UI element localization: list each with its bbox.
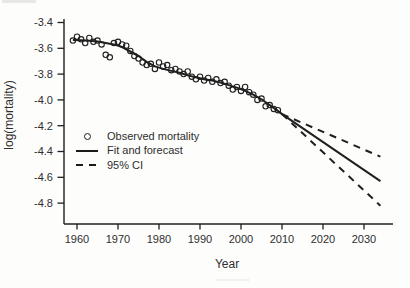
observed-point [185,69,190,74]
observed-point [242,84,247,89]
y-tick-label: -4.4 [34,145,53,157]
dashed-line-icon [76,160,98,170]
y-tick-label: -3.6 [34,42,53,54]
observed-point [107,55,112,60]
y-axis-title: log(mortality) [2,80,16,149]
y-tick-label: -3.4 [34,16,53,28]
legend: Observed mortality Fit and forecast 95% … [76,129,199,173]
x-axis-title: Year [215,257,239,271]
ci-lower-line [282,114,380,206]
x-tick-label: 1960 [65,233,89,245]
y-tick-label: -4.2 [34,120,53,132]
x-tick-label: 1990 [188,233,212,245]
x-tick-label: 2010 [270,233,294,245]
legend-item-observed: Observed mortality [76,129,199,144]
x-tick-label: 2000 [229,233,253,245]
x-tick-label: 2030 [352,233,376,245]
y-tick-label: -4.8 [34,197,53,209]
legend-label-ci: 95% CI [107,160,143,171]
solid-line-icon [76,146,98,156]
x-tick-label: 1970 [106,233,130,245]
y-tick-label: -4.0 [34,94,53,106]
legend-item-ci: 95% CI [76,158,199,173]
y-tick-label: -4.6 [34,171,53,183]
legend-label-observed: Observed mortality [107,131,199,142]
y-tick-label: -3.8 [34,68,53,80]
ci-upper-line [282,114,380,157]
plot-area: -3.4-3.6-3.8-4.0-4.2-4.4-4.6-4.819601970… [0,0,410,288]
legend-label-fit: Fit and forecast [107,145,183,156]
x-tick-label: 2020 [311,233,335,245]
legend-item-fit: Fit and forecast [76,144,199,159]
open-circle-icon [76,131,98,141]
mortality-forecast-chart: -3.4-3.6-3.8-4.0-4.2-4.4-4.6-4.819601970… [0,0,410,288]
x-tick-label: 1980 [147,233,171,245]
